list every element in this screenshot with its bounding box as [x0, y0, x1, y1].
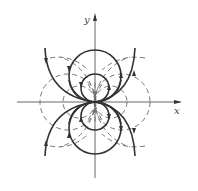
arrow-icon — [132, 70, 136, 76]
dipole-field-diagram: x y — [0, 0, 198, 191]
field-line-outer-tl — [45, 48, 95, 102]
arrow-icon — [119, 72, 123, 78]
field-line-outer-bl — [45, 102, 95, 156]
arrow-icon — [132, 128, 136, 134]
arrow-icon — [79, 82, 83, 88]
arrow-icon — [119, 126, 123, 132]
arrow-icon — [79, 116, 83, 122]
x-axis-label: x — [174, 105, 180, 116]
y-axis-label: y — [83, 14, 90, 25]
arrow-icon — [107, 114, 111, 120]
x-axis-arrow-icon — [174, 100, 182, 104]
arrow-icon — [107, 84, 111, 90]
y-axis-arrow-icon — [93, 13, 97, 21]
